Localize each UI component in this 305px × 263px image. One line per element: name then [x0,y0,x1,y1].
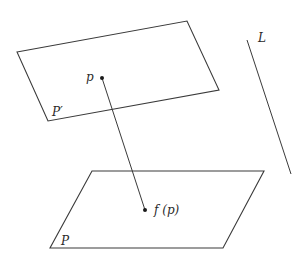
label-plane-p: P [60,234,70,248]
label-line-l: L [257,31,266,45]
diagram-canvas: P′ P p f (p) L [0,0,305,263]
line-l [247,40,291,174]
plane-p-prime [17,21,219,121]
label-point-fp: f (p) [153,203,180,217]
point-p [100,76,104,80]
mapping-segment [102,78,145,210]
label-plane-p-prime: P′ [51,105,63,119]
label-point-p: p [86,70,94,84]
point-fp [143,208,147,212]
